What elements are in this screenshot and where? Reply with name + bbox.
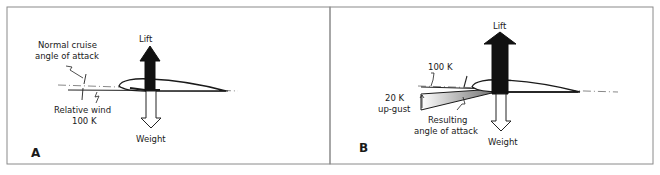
gust-label-b-line1: 20 K: [385, 93, 405, 103]
weight-label-b: Weight: [488, 137, 518, 147]
panel-letter-b: B: [359, 141, 368, 155]
lift-label-b: Lift: [493, 21, 507, 31]
result-aoa-label-b-line2: angle of attack: [414, 126, 478, 136]
speed-leader-icon: [431, 73, 434, 86]
gust-label-b-line2: up-gust: [378, 104, 411, 114]
weight-arrow-icon-b: [491, 94, 511, 131]
airfoil-icon-b: [472, 80, 580, 92]
lift-label-a: Lift: [139, 34, 153, 44]
panel-b: Lift 100 K 20 K up-gust Resulting angle …: [330, 7, 653, 164]
weight-label-a: Weight: [136, 134, 166, 144]
wind-leader-icon: [95, 92, 99, 103]
weight-arrow-icon: [141, 91, 161, 128]
wind-label-a-line1: Relative wind: [54, 105, 111, 115]
aoa-mark-icon: [464, 76, 467, 87]
aoa-label-a-line1: Normal cruise: [38, 40, 97, 50]
aoa-leader-icon: [66, 66, 83, 78]
wind-label-a-line2: 100 K: [72, 116, 97, 126]
gust-wedge-icon: [421, 89, 496, 110]
aoa-label-a-line2: angle of attack: [35, 51, 99, 61]
speed-label-b: 100 K: [428, 62, 453, 72]
panel-letter-a: A: [31, 146, 41, 160]
lift-weight-gust-diagram: Lift Normal cruise angle of attack Relat…: [0, 0, 660, 175]
panel-a: Lift Normal cruise angle of attack Relat…: [7, 7, 330, 164]
result-aoa-label-b-line1: Resulting: [428, 115, 467, 125]
